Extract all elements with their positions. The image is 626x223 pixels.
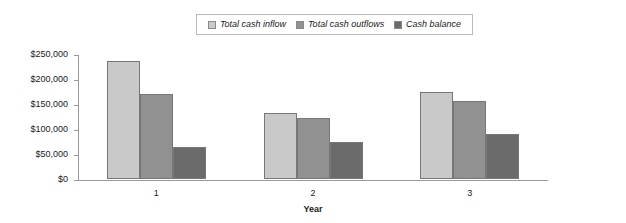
y-axis-tick: $250,000 xyxy=(74,55,78,56)
legend-label: Cash balance xyxy=(406,20,461,29)
legend-swatch-icon xyxy=(208,21,216,29)
legend-swatch-icon xyxy=(296,21,304,29)
bar xyxy=(486,134,519,179)
y-axis-tick: $200,000 xyxy=(74,80,78,81)
y-axis-tick-label: $250,000 xyxy=(30,49,68,59)
legend-entry: Total cash outflows xyxy=(296,20,384,29)
y-axis-tick-label: $0 xyxy=(58,174,68,184)
bar-group xyxy=(264,54,363,179)
bar-chart: Total cash inflowTotal cash outflowsCash… xyxy=(0,0,626,223)
x-axis-category-label: 1 xyxy=(154,188,159,198)
x-axis-line xyxy=(78,180,548,181)
bar xyxy=(173,147,206,180)
bar-group xyxy=(107,54,206,179)
legend-label: Total cash inflow xyxy=(220,20,286,29)
legend-entry: Cash balance xyxy=(394,20,461,29)
bar xyxy=(330,142,363,180)
legend-swatch-icon xyxy=(394,21,402,29)
bar xyxy=(107,61,140,179)
bar xyxy=(264,113,297,180)
chart-legend: Total cash inflowTotal cash outflowsCash… xyxy=(196,14,473,35)
bar-group xyxy=(420,54,519,179)
x-axis-category-label: 3 xyxy=(467,188,472,198)
x-axis-category-label: 2 xyxy=(310,188,315,198)
y-axis-tick-label: $200,000 xyxy=(30,74,68,84)
legend-entry: Total cash inflow xyxy=(208,20,286,29)
bar xyxy=(420,92,453,180)
y-axis-tick: $150,000 xyxy=(74,105,78,106)
x-axis-title: Year xyxy=(78,204,548,214)
y-axis-tick: $50,000 xyxy=(74,155,78,156)
y-axis-tick-label: $50,000 xyxy=(35,149,68,159)
y-axis-tick-label: $100,000 xyxy=(30,124,68,134)
y-axis-tick-label: $150,000 xyxy=(30,99,68,109)
legend-label: Total cash outflows xyxy=(308,20,384,29)
bar xyxy=(453,101,486,180)
plot-area: $0$50,000$100,000$150,000$200,000$250,00… xyxy=(78,55,548,180)
bar xyxy=(140,94,173,180)
y-axis-line xyxy=(78,55,79,180)
bar xyxy=(297,118,330,179)
y-axis-tick: $100,000 xyxy=(74,130,78,131)
y-axis-tick: $0 xyxy=(74,180,78,181)
